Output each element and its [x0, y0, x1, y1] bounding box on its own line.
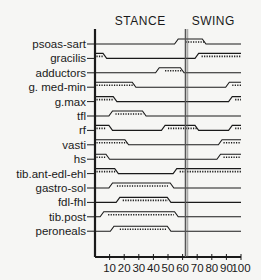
x-tick-label: 80 — [205, 262, 218, 274]
muscle-label: adductors — [35, 67, 86, 79]
x-tick-label: 60 — [176, 262, 189, 274]
muscle-row: g. med-min — [28, 81, 241, 93]
phase-labels: STANCESWING — [115, 14, 235, 28]
x-tick-label: 20 — [118, 262, 131, 274]
muscle-rows: psoas-sartgracilisadductorsg. med-ming.m… — [16, 38, 241, 237]
phase-label-swing: SWING — [192, 14, 235, 28]
activity-profile — [95, 212, 241, 217]
muscle-label: fdl-fhl — [58, 196, 86, 208]
muscle-row: hs — [74, 153, 241, 165]
activity-profile — [95, 169, 241, 174]
muscle-label: hs — [74, 153, 86, 165]
activity-profile — [95, 111, 241, 116]
axes: 102030405060708090100 — [95, 29, 251, 274]
muscle-label: rf — [79, 124, 87, 136]
muscle-label: tfl — [77, 110, 86, 122]
muscle-row: tib.ant-edl-ehl — [16, 168, 241, 180]
muscle-row: tib.post — [49, 211, 241, 223]
activity-profile — [95, 226, 241, 231]
muscle-label: peroneals — [35, 225, 86, 237]
muscle-row: rf — [79, 124, 241, 136]
muscle-label: g.max — [55, 96, 87, 108]
activity-profile — [95, 154, 241, 159]
muscle-row: peroneals — [35, 225, 241, 237]
muscle-label: gracilis — [50, 52, 86, 64]
activity-profile — [95, 97, 241, 102]
phase-label-stance: STANCE — [115, 14, 166, 28]
muscle-label: psoas-sart — [32, 38, 86, 50]
muscle-label: gastro-sol — [36, 182, 87, 194]
gait-emg-timeline-chart: STANCESWING psoas-sartgracilisadductorsg… — [0, 0, 261, 280]
muscle-label: tib.ant-edl-ehl — [16, 168, 86, 180]
muscle-row: fdl-fhl — [58, 196, 241, 208]
x-tick-label: 50 — [162, 262, 175, 274]
muscle-row: tfl — [77, 110, 241, 122]
muscle-row: vasti — [62, 139, 241, 151]
activity-profile — [95, 39, 241, 44]
muscle-row: gracilis — [50, 52, 241, 64]
muscle-label: tib.post — [49, 211, 87, 223]
muscle-row: g.max — [55, 96, 241, 108]
x-tick-label: 40 — [147, 262, 160, 274]
x-tick-label: 70 — [191, 262, 204, 274]
x-tick-label: 100 — [231, 262, 250, 274]
x-tick-label: 30 — [132, 262, 145, 274]
muscle-label: g. med-min — [28, 81, 86, 93]
muscle-row: gastro-sol — [36, 182, 242, 194]
x-tick-label: 10 — [103, 262, 116, 274]
muscle-row: adductors — [35, 67, 241, 79]
muscle-row: psoas-sart — [32, 38, 241, 50]
muscle-label: vasti — [62, 139, 86, 151]
